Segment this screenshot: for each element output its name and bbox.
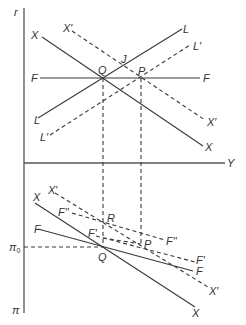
- upper-f-left-label: F: [31, 72, 39, 84]
- upper-x-prime-right-label: X′: [206, 116, 217, 128]
- lower-point-p: P: [144, 238, 152, 250]
- upper-l-right-label: L: [183, 23, 189, 35]
- upper-point-q: Q: [98, 64, 107, 76]
- lower-x-prime-right-label: X′: [208, 285, 219, 297]
- upper-l-prime-left-label: L′: [40, 131, 49, 143]
- lower-f-left-label: F: [34, 223, 42, 235]
- upper-x-left-label: X: [30, 29, 39, 41]
- upper-point-p: P: [138, 65, 146, 77]
- lower-f-prime-right-label: F′: [196, 254, 206, 266]
- lower-f-right-label: F: [196, 265, 204, 277]
- upper-l-left-label: L: [34, 114, 40, 126]
- lower-f-double-prime-right-label: F′′: [166, 235, 178, 247]
- lower-x-prime-left-label: X′: [47, 184, 58, 196]
- upper-l-curve: [38, 29, 182, 118]
- pi-axis-label: π: [12, 304, 20, 316]
- pi0-label: π0: [9, 241, 20, 254]
- lower-point-r: R: [107, 212, 115, 224]
- upper-x-right-label: X: [204, 141, 213, 153]
- lower-x-curve: [35, 203, 195, 307]
- lower-x-right-label: X: [191, 307, 200, 319]
- upper-x-prime-left-label: X′: [62, 22, 73, 34]
- lower-f-double-prime-left-label: F′′: [58, 206, 70, 218]
- upper-f-right-label: F: [203, 72, 211, 84]
- y-axis-label: Y: [227, 157, 235, 169]
- upper-point-j: J: [120, 53, 127, 65]
- r-axis-label: r: [14, 6, 19, 18]
- lower-x-left-label: X: [32, 191, 41, 203]
- lower-f-prime-left-label: F′: [88, 227, 98, 239]
- lower-point-q: Q: [98, 251, 107, 263]
- lower-q-to-p-dashed: [103, 238, 141, 244]
- diagram-canvas: r Y X X X′ X′ L L L′ L′ F F Q P J X X X′…: [0, 0, 246, 325]
- upper-l-prime-right-label: L′: [193, 40, 202, 52]
